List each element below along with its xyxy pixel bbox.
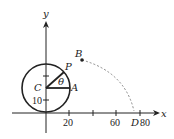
x-axis-label: x — [161, 108, 167, 119]
y-tick-label-10: 10 — [32, 95, 42, 106]
angle-theta-label: θ — [58, 76, 64, 87]
x-tick-label-60: 60 — [110, 117, 120, 128]
trajectory-arc — [82, 60, 134, 111]
x-tick-label-20: 20 — [63, 117, 73, 128]
x-axis — [12, 110, 160, 116]
point-D-label: D — [130, 117, 139, 128]
y-axis-label: y — [42, 8, 49, 19]
point-P-label: P — [64, 61, 72, 72]
x-tick-label-80: 80 — [140, 117, 150, 128]
point-A-label: A — [70, 82, 78, 93]
y-axis — [43, 21, 49, 133]
point-C-label: C — [34, 82, 42, 93]
diagram-canvas: y x C P A B D θ 20 60 80 10 — [0, 0, 174, 139]
point-B-label: B — [74, 48, 82, 59]
